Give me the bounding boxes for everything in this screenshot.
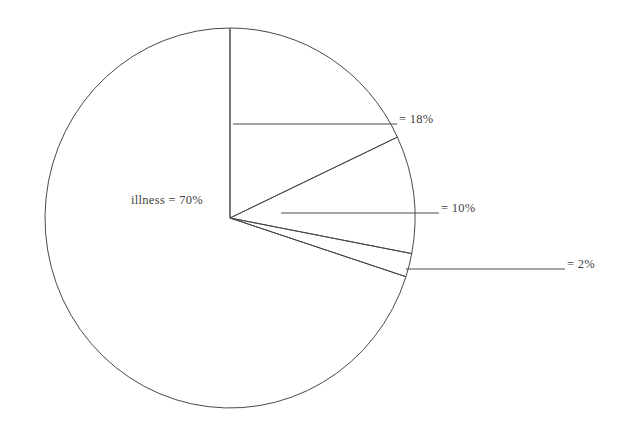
pie-label-slice-10: = 10%: [441, 201, 476, 216]
pie-label-slice-18: = 18%: [399, 112, 434, 127]
pie-wedge-group: [45, 28, 415, 408]
pie-chart-graphic: [0, 0, 631, 430]
leader-line-group: [233, 124, 565, 269]
pie-label-illness: illness = 70%: [131, 193, 203, 208]
pie-wedge-illness[interactable]: [45, 28, 406, 408]
pie-wedge-slice-18[interactable]: [230, 28, 397, 218]
pie-label-slice-2: = 2%: [567, 257, 595, 272]
pie-wedge-slice-2[interactable]: [230, 218, 412, 277]
pie-chart-canvas: illness = 70%= 18%= 10%= 2%: [0, 0, 631, 430]
